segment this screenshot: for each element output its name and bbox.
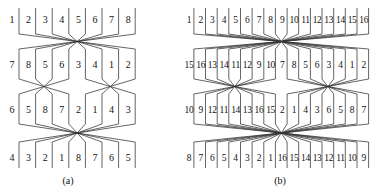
node-label: 3 xyxy=(245,153,250,163)
node-label: 1 xyxy=(350,60,355,70)
node-label: 8 xyxy=(43,104,48,115)
permutation-network-figure: 1234567878563412658721434321876512345678… xyxy=(0,0,370,191)
node-label: 8 xyxy=(292,60,297,70)
node-label: 5 xyxy=(76,14,81,25)
node-label: 6 xyxy=(327,105,332,115)
node-label: 2 xyxy=(362,60,367,70)
node-label: 1 xyxy=(268,153,273,163)
node-label: 6 xyxy=(245,15,250,25)
node-label: 3 xyxy=(43,14,48,25)
wire-layer xyxy=(19,8,369,168)
node-label: 5 xyxy=(303,60,308,70)
node-label: 11 xyxy=(220,105,229,115)
node-label: 1 xyxy=(59,152,64,163)
node-label: 6 xyxy=(10,104,15,115)
connection-wire xyxy=(287,75,369,98)
node-label: 15 xyxy=(185,60,194,70)
connection-wire xyxy=(194,75,276,98)
node-label: 16 xyxy=(359,15,368,25)
node-label: 9 xyxy=(198,105,203,115)
node-label: 1 xyxy=(292,105,297,115)
caption-a: (a) xyxy=(62,175,73,187)
node-label: 5 xyxy=(233,15,238,25)
node-label: 3 xyxy=(315,105,320,115)
node-label: 2 xyxy=(198,15,203,25)
node-label: 10 xyxy=(185,105,194,115)
node-label: 16 xyxy=(278,153,287,163)
node-label: 2 xyxy=(126,59,131,70)
node-label: 12 xyxy=(324,153,333,163)
node-label: 2 xyxy=(257,153,262,163)
node-label: 7 xyxy=(59,104,64,115)
node-label: 10 xyxy=(348,153,357,163)
node-label: 12 xyxy=(313,15,322,25)
node-label: 6 xyxy=(109,152,114,163)
node-label: 11 xyxy=(231,60,240,70)
connection-wire xyxy=(85,75,135,98)
node-label: 14 xyxy=(336,15,345,25)
node-label: 1 xyxy=(10,14,15,25)
node-label: 13 xyxy=(313,153,322,163)
node-label: 4 xyxy=(109,104,114,115)
node-label: 1 xyxy=(187,15,192,25)
node-label: 5 xyxy=(338,105,343,115)
node-label: 9 xyxy=(280,15,285,25)
node-label: 4 xyxy=(303,105,308,115)
node-label: 9 xyxy=(257,60,262,70)
node-label: 8 xyxy=(126,14,131,25)
node-label: 8 xyxy=(26,59,31,70)
node-label: 1 xyxy=(109,59,114,70)
connection-wire xyxy=(19,75,69,98)
node-label: 12 xyxy=(208,105,217,115)
node-label: 5 xyxy=(26,104,31,115)
node-label: 4 xyxy=(222,15,227,25)
node-label: 7 xyxy=(198,153,203,163)
node-label: 15 xyxy=(266,105,275,115)
node-label: 15 xyxy=(289,153,298,163)
node-label: 14 xyxy=(301,153,310,163)
node-label: 3 xyxy=(327,60,332,70)
node-label: 3 xyxy=(210,15,215,25)
caption-b: (b) xyxy=(274,175,286,187)
node-label: 13 xyxy=(243,105,252,115)
node-label: 8 xyxy=(76,152,81,163)
node-label: 13 xyxy=(208,60,217,70)
node-label: 6 xyxy=(315,60,320,70)
node-label: 7 xyxy=(362,105,367,115)
node-label: 11 xyxy=(301,15,310,25)
node-label: 4 xyxy=(93,59,98,70)
node-label: 2 xyxy=(280,105,285,115)
node-label: 7 xyxy=(109,14,114,25)
node-label: 15 xyxy=(348,15,357,25)
node-label: 9 xyxy=(362,153,367,163)
node-label: 3 xyxy=(26,152,31,163)
node-label: 4 xyxy=(233,153,238,163)
node-label: 3 xyxy=(76,59,81,70)
node-label: 16 xyxy=(254,105,263,115)
node-label: 7 xyxy=(257,15,262,25)
node-label: 4 xyxy=(10,152,15,163)
node-label: 11 xyxy=(336,153,345,163)
node-label: 16 xyxy=(196,60,205,70)
node-label: 2 xyxy=(76,104,81,115)
node-label: 14 xyxy=(219,60,228,70)
node-label: 6 xyxy=(210,153,215,163)
node-label: 7 xyxy=(93,152,98,163)
node-label: 7 xyxy=(10,59,15,70)
node-label: 8 xyxy=(350,105,355,115)
node-label: 2 xyxy=(43,152,48,163)
node-label: 7 xyxy=(280,60,285,70)
node-label: 4 xyxy=(338,60,343,70)
node-label: 10 xyxy=(266,60,275,70)
node-label: 5 xyxy=(43,59,48,70)
node-label: 8 xyxy=(187,153,192,163)
node-label: 3 xyxy=(126,104,131,115)
node-label: 5 xyxy=(222,153,227,163)
node-label: 10 xyxy=(289,15,298,25)
node-label: 1 xyxy=(93,104,98,115)
node-label: 6 xyxy=(93,14,98,25)
node-label: 8 xyxy=(268,15,273,25)
node-label: 6 xyxy=(59,59,64,70)
node-label: 5 xyxy=(126,152,131,163)
node-label: 12 xyxy=(243,60,252,70)
